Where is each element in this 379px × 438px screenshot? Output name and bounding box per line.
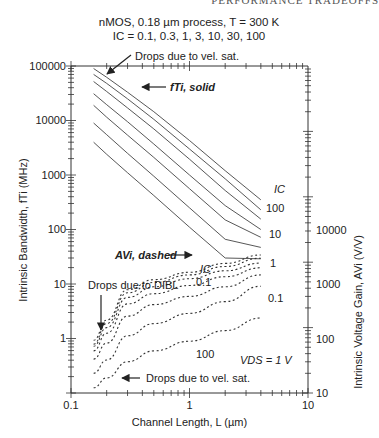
av-curve [94,255,261,340]
vel-sat-top-label: Drops due to vel. sat. [135,50,239,62]
ft-ic-label-1: 1 [270,257,276,269]
y-axis-right-labels: 10000 1000 100 10 [316,224,347,399]
ft-curve [94,74,261,209]
av-curve [94,263,261,346]
y-tick-left: 100 [48,223,66,235]
chart: nMOS, 0.18 µm process, T = 300 K IC = 0.… [0,0,379,438]
ft-ic-label-0.1: 0.1 [268,292,283,304]
x-tick: 10 [302,399,314,411]
vel-sat-bottom-label: Drops due to vel. sat. [146,372,250,384]
y-axis-left-labels: 100000 10000 1000 100 10 1 [29,60,66,344]
av-label: AVi, dashed [114,249,177,261]
y-tick-left: 100000 [29,60,66,72]
y-tick-right: 10000 [316,224,347,236]
ft-curve [94,94,261,230]
x-axis-labels: 0.1 1 10 [63,399,314,411]
ft-ic-label-100: 100 [266,202,284,214]
ft-label: fTi, solid [170,81,215,93]
ft-curve [94,105,261,237]
chart-subtitle: IC = 0.1, 0.3, 1, 3, 10, 30, 100 [113,30,265,42]
y-axis-right-label: Intrinsic Voltage Gain, AVi (V/V) [352,235,364,389]
y-tick-right: 10 [316,387,328,399]
y-tick-right: 1000 [316,278,340,290]
vds-label: VDS = 1 V [240,354,293,366]
ft-series-group [94,69,261,259]
y-tick-left: 10 [54,278,66,290]
y-tick-right: 100 [316,333,334,345]
ft-curve [94,82,261,220]
av-series-group [94,255,261,388]
av-curve [94,258,261,344]
av-ic-header: IC [200,263,211,275]
x-tick: 0.1 [63,399,78,411]
ft-ic-label-10: 10 [269,228,281,240]
ft-curve [94,123,261,247]
x-tick: 1 [186,399,192,411]
av-ic-label-100: 100 [196,348,214,360]
y-axis-left-label: Intrinsic Bandwidth, fTi (MHz) [17,158,29,301]
y-tick-left: 1 [60,332,66,344]
annotations: Drops due to vel. sat. fTi, solid IC 100… [88,50,293,384]
ft-ic-header: IC [274,183,285,195]
chart-title: nMOS, 0.18 µm process, T = 300 K [99,16,280,28]
av-ic-label-0.1: 0.1 [196,276,211,288]
dibl-label: Drops due to DIBL [88,279,179,291]
y-tick-left: 1000 [42,169,66,181]
x-axis-label: Channel Length, L (µm) [132,416,247,428]
y-tick-left: 10000 [35,114,66,126]
